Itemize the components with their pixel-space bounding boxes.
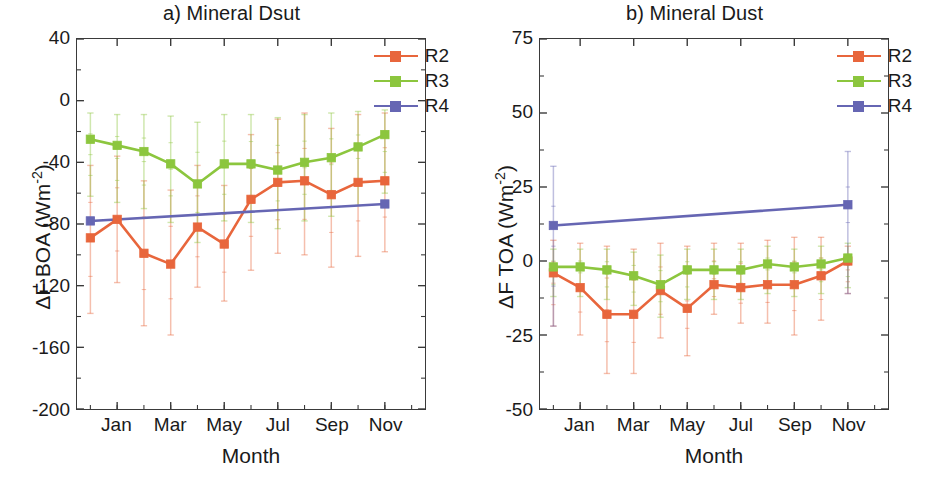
panel-a-y-axis-title-main: ΔF BOA (Wm	[31, 184, 54, 310]
legend-swatch-r2	[374, 49, 418, 63]
panel-b-legend: R2R3R4	[837, 46, 912, 115]
x-tick-label: Nov	[369, 414, 403, 436]
figure-root: a) Mineral Dsut 400-40-80-120-160-200 Ja…	[0, 0, 926, 479]
legend-swatch-r2	[837, 49, 881, 63]
panel-b-y-axis-title-exponent: -2	[492, 172, 508, 185]
panel-b-x-axis-title: Month	[539, 444, 889, 468]
legend-swatch-r4	[374, 99, 418, 113]
y-tick-label: 0	[59, 89, 70, 111]
panel-b-x-axis-ticks: JanMarMayJulSepNov	[539, 412, 889, 446]
legend-square-marker-icon	[853, 76, 864, 87]
panel-b-y-axis-title-close: )	[494, 165, 517, 172]
legend-label: R3	[888, 71, 912, 90]
panel-a-legend: R2R3R4	[374, 46, 449, 115]
x-tick-label: Sep	[315, 414, 349, 436]
legend-entry-r3[interactable]: R3	[837, 71, 912, 90]
legend-entry-r3[interactable]: R3	[374, 71, 449, 90]
legend-swatch-r4	[837, 99, 881, 113]
legend-label: R4	[888, 96, 912, 115]
y-tick-label: -50	[506, 399, 533, 421]
panel-a-x-axis-title: Month	[76, 444, 426, 468]
legend-entry-r2[interactable]: R2	[374, 46, 449, 65]
legend-entry-r4[interactable]: R4	[837, 96, 912, 115]
legend-label: R2	[888, 46, 912, 65]
y-tick-label: 75	[512, 27, 533, 49]
legend-square-marker-icon	[390, 51, 401, 62]
legend-label: R2	[425, 46, 449, 65]
legend-swatch-r3	[374, 74, 418, 88]
x-tick-label: May	[669, 414, 705, 436]
panel-a-x-axis-ticks: JanMarMayJulSepNov	[76, 412, 426, 446]
x-tick-label: May	[206, 414, 242, 436]
panel-b-title: b) Mineral Dust	[463, 2, 926, 25]
legend-entry-r2[interactable]: R2	[837, 46, 912, 65]
y-tick-label: 40	[49, 27, 70, 49]
legend-label: R4	[425, 96, 449, 115]
legend-entry-r4[interactable]: R4	[374, 96, 449, 115]
panel-a-title: a) Mineral Dsut	[0, 2, 463, 25]
legend-swatch-r3	[837, 74, 881, 88]
x-tick-label: Jul	[729, 414, 753, 436]
x-tick-label: Nov	[832, 414, 866, 436]
legend-label: R3	[425, 71, 449, 90]
x-tick-label: Sep	[778, 414, 812, 436]
x-tick-label: Jan	[564, 414, 595, 436]
legend-square-marker-icon	[853, 101, 864, 112]
legend-square-marker-icon	[853, 51, 864, 62]
y-tick-label: -200	[32, 399, 70, 421]
panel-b-y-axis-title-main: ΔF TOA (Wm	[494, 185, 517, 309]
y-tick-label: 0	[522, 250, 533, 272]
legend-square-marker-icon	[390, 101, 401, 112]
panel-a: a) Mineral Dsut 400-40-80-120-160-200 Ja…	[0, 0, 463, 479]
x-tick-label: Jan	[101, 414, 132, 436]
x-tick-label: Mar	[617, 414, 650, 436]
x-tick-label: Jul	[266, 414, 290, 436]
panel-b-y-axis-title: ΔF TOA (Wm-2)	[492, 107, 518, 367]
panel-b: b) Mineral Dust 7550250-25-50 JanMarMayJ…	[463, 0, 926, 479]
panel-a-y-axis-title: ΔF BOA (Wm-2)	[29, 107, 55, 367]
panel-a-y-axis-title-close: )	[31, 164, 54, 171]
x-tick-label: Mar	[154, 414, 187, 436]
legend-square-marker-icon	[390, 76, 401, 87]
panel-a-y-axis-title-exponent: -2	[29, 171, 45, 184]
